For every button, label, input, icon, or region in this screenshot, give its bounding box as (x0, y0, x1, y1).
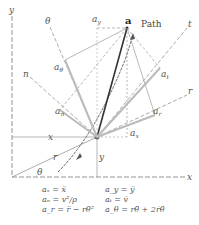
equation-ar: a_r = r̈ − rθ̇² (42, 205, 94, 214)
acceleration-components-diagram: y x θ n t r a Path ay aθ at an ar ax x y… (0, 0, 199, 225)
path-arrow-lower (76, 153, 82, 160)
a-x-label: ax (130, 128, 139, 139)
a-to-atheta-line (65, 28, 127, 60)
equation-ay: a_y = ÿ (105, 185, 135, 194)
a-r-label: ar (153, 106, 162, 117)
r-axis-line (97, 95, 187, 137)
theta-angle-label: θ (37, 167, 43, 177)
point-a-label: a (125, 15, 132, 26)
x-axis-label: x (187, 172, 192, 182)
equation-ax: aₓ = ẍ (42, 185, 66, 194)
n-axis-label: n (23, 69, 29, 79)
path-label: Path (141, 19, 162, 29)
equation-atheta: a_θ = rθ̈ + 2ṙθ̇ (105, 205, 165, 214)
r-axis-label: r (188, 86, 193, 96)
x-dimension-label: x (48, 132, 53, 142)
theta-axis-label: θ (45, 16, 51, 26)
n-axis-line (30, 77, 97, 137)
a-to-an-line (60, 28, 127, 110)
t-axis-label: t (188, 19, 192, 29)
y-axis-label: y (8, 5, 15, 15)
y-dimension-label: y (98, 152, 105, 162)
a-y-label: ay (92, 14, 101, 26)
a-n-label: an (55, 106, 64, 117)
r-dimension-label: r (53, 152, 58, 162)
a-t-label: at (161, 69, 169, 80)
equation-at: aₜ = v̇ (105, 195, 129, 204)
equation-an: aₙ = v²/ρ (42, 195, 77, 204)
a-to-at-line (127, 28, 160, 68)
path-curve (58, 35, 133, 172)
a-theta-label: aθ (54, 62, 63, 73)
